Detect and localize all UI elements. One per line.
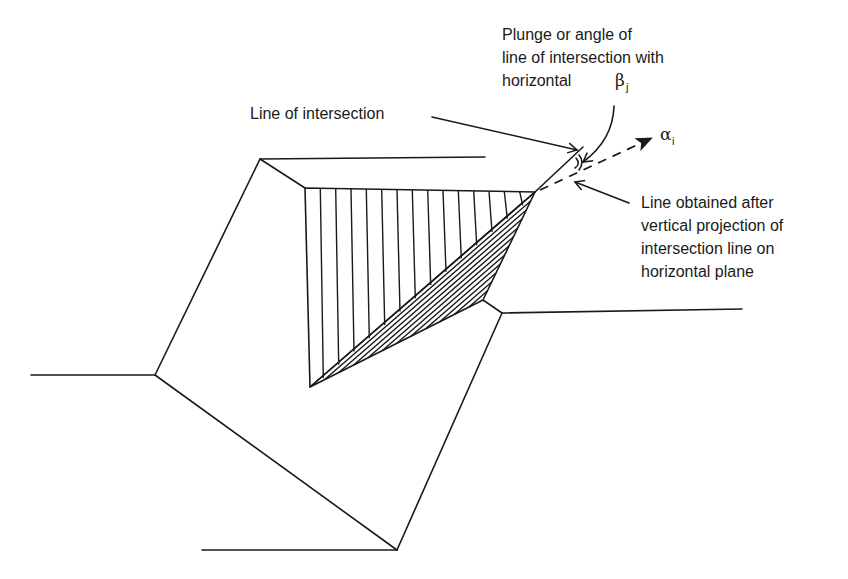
left-plane-hatching [320, 188, 522, 378]
plunge-label-line-3: horizontal [502, 72, 571, 89]
hatch-line-vertical [428, 190, 431, 285]
projection-label-line-2: vertical projection of [641, 217, 784, 234]
plunge-label-line-2: line of intersection with [502, 49, 664, 66]
hatch-line-diagonal [425, 264, 500, 329]
beta-subscript: j [625, 81, 628, 93]
projection-label: Line obtained after vertical projection … [641, 194, 784, 280]
hatch-line-diagonal [411, 255, 505, 336]
plunge-label-line-1: Plunge or angle of [502, 26, 632, 43]
hatch-line-vertical [443, 190, 446, 271]
hatch-line-vertical [458, 191, 461, 259]
wedge [305, 188, 535, 387]
plunge-label: Plunge or angle of line of intersection … [502, 26, 664, 89]
line-of-intersection-label: Line of intersection [250, 105, 384, 122]
right-plane-hatching [324, 201, 530, 380]
hatch-line-vertical [320, 188, 323, 378]
right-bench-line [502, 309, 742, 313]
plunge-angle-arc-inner [575, 158, 578, 168]
projection-line-pointer [575, 182, 629, 203]
slope-face-left-edge [155, 159, 260, 375]
hatch-line-vertical [366, 189, 369, 338]
alpha-symbol: α i [660, 124, 674, 147]
intersection-line-extension [535, 147, 583, 192]
hatch-line-vertical [382, 189, 385, 325]
hatch-line-vertical [504, 192, 507, 219]
hatch-line-vertical [489, 191, 492, 232]
hatch-line-vertical [412, 190, 415, 298]
plunge-angle-pointer [583, 106, 614, 162]
wedge-to-bench-edge [483, 300, 502, 313]
alpha-glyph: α [660, 124, 672, 144]
hatch-line-diagonal [440, 273, 496, 322]
hatch-line-diagonal [353, 219, 522, 365]
hatch-line-diagonal [324, 201, 530, 380]
wedge-left-plane-outline [305, 188, 535, 387]
wedge-failure-diagram: Line of intersection Plunge or angle of … [0, 0, 848, 579]
slope-face-right-edge [397, 313, 502, 550]
crest-to-wedge-edge [260, 159, 305, 188]
hatch-line-diagonal [368, 228, 518, 358]
crest-line [260, 157, 485, 159]
hatch-line-vertical [397, 190, 400, 312]
beta-symbol: β j [615, 70, 628, 93]
hatch-line-vertical [474, 191, 477, 245]
toe-lower-edge [155, 375, 397, 550]
slope-outline [31, 157, 742, 550]
beta-glyph: β [615, 70, 625, 90]
hatch-line-vertical [351, 189, 354, 352]
projection-label-line-1: Line obtained after [641, 194, 774, 211]
wedge-right-plane-outline [310, 192, 535, 387]
projection-label-line-4: horizontal plane [641, 263, 754, 280]
hatch-line-vertical [336, 189, 339, 365]
alpha-subscript: i [672, 135, 674, 147]
projection-label-line-3: intersection line on [641, 240, 774, 257]
plunge-angle-arc [579, 155, 582, 170]
hatch-line-diagonal [397, 246, 510, 344]
line-of-intersection-pointer [432, 117, 577, 150]
